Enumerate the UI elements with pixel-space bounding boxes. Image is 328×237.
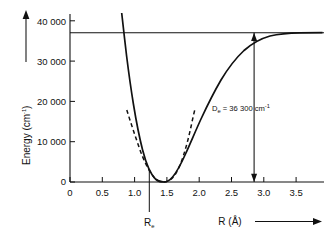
x-axis-title: R (Å)	[218, 215, 241, 227]
morse-potential-curve	[122, 13, 323, 182]
chart-canvas: Energy (cm-1) 0 10 000 20 000 30 000 40 …	[0, 0, 328, 237]
equilibrium-distance-label: Re	[144, 217, 154, 229]
x-tick-label-1-5: 1.5	[160, 187, 173, 198]
harmonic-parabola-right-branch	[164, 108, 195, 182]
y-tick-label-10000: 10 000	[37, 136, 66, 147]
y-axis-direction-arrow-icon	[23, 10, 30, 62]
x-tick-label-0-5: 0.5	[96, 187, 109, 198]
dissociation-energy-label: De = 36 300 cm-1	[212, 103, 270, 114]
y-tick-label-20000: 20 000	[37, 96, 66, 107]
x-tick-label-3-0: 3.0	[257, 187, 270, 198]
y-axis-title-tail: )	[21, 106, 32, 109]
svg-text:Energy (cm-1): Energy (cm-1)	[21, 106, 32, 165]
x-axis-ticks	[70, 177, 296, 182]
x-tick-label-3-5: 3.5	[289, 187, 302, 198]
x-tick-label-1-0: 1.0	[128, 187, 141, 198]
de-units-superscript: -1	[265, 103, 270, 109]
re-subscript: e	[151, 223, 154, 229]
de-value-text: = 36 300 cm	[221, 104, 265, 113]
y-tick-label-40000: 40 000	[37, 16, 66, 27]
y-tick-label-0: 0	[61, 176, 66, 187]
x-tick-label-0: 0	[67, 187, 72, 198]
y-axis-title: Energy (cm-1)	[21, 106, 32, 165]
y-axis-title-text: Energy (cm	[21, 114, 32, 165]
y-axis-ticks	[70, 21, 75, 182]
potential-energy-curve-figure: Energy (cm-1) 0 10 000 20 000 30 000 40 …	[0, 0, 328, 237]
x-tick-label-2-5: 2.5	[225, 187, 238, 198]
y-tick-label-30000: 30 000	[37, 56, 66, 67]
x-tick-label-2-0: 2.0	[193, 187, 206, 198]
x-axis-direction-arrow-icon	[255, 218, 322, 225]
harmonic-parabola-left-branch	[127, 110, 164, 182]
re-symbol: R	[144, 217, 151, 228]
